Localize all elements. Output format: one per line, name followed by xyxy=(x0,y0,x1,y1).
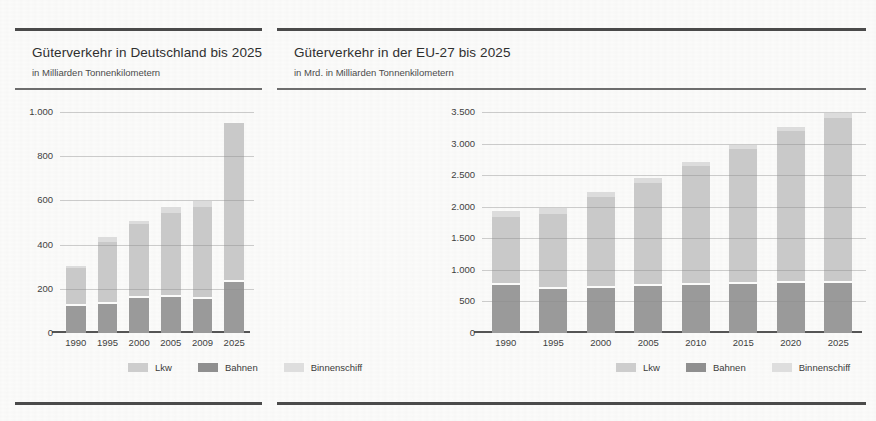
bar-slot-2009-de[interactable]: 2009 xyxy=(187,112,219,333)
y-axis-tick-label: 500 xyxy=(459,297,475,307)
header-divider xyxy=(277,88,866,90)
bar-segment-lkw[interactable] xyxy=(161,213,181,297)
panel-bottom-rule xyxy=(277,402,866,405)
x-axis-tick-label: 1995 xyxy=(97,337,118,348)
bar-segment-bahnen[interactable] xyxy=(729,284,757,333)
chart-plot-area-eu27: 19901995200020052010201520202025 05001.0… xyxy=(482,112,862,333)
y-axis-tick-label: 200 xyxy=(37,284,53,294)
bar-segment-bahnen[interactable] xyxy=(824,283,852,334)
bar-segment-bahnen[interactable] xyxy=(492,285,520,333)
bar-group-eu27: 19901995200020052010201520202025 xyxy=(482,112,862,333)
legend-item-bahnen[interactable]: Bahnen xyxy=(198,362,258,373)
bar-segment-lkw[interactable] xyxy=(66,268,86,306)
legend-label: Bahnen xyxy=(713,362,746,373)
legend-label: Lkw xyxy=(643,362,660,373)
bar-segment-lkw[interactable] xyxy=(98,242,118,305)
gridline xyxy=(482,270,866,271)
legend-swatch-bahnen xyxy=(686,363,706,372)
stacked-bar[interactable] xyxy=(492,211,520,333)
bar-segment-lkw[interactable] xyxy=(824,118,852,283)
x-axis-tick-label: 2000 xyxy=(129,337,150,348)
legend-item-lkw[interactable]: Lkw xyxy=(128,362,172,373)
bar-slot-1990-eu[interactable]: 1990 xyxy=(482,112,530,333)
chart-panel-germany: Güterverkehr in Deutschland bis 2025 in … xyxy=(0,0,276,421)
page-subtitle: in Mrd. in Milliarden Tonnenkilometern xyxy=(294,67,454,78)
y-axis-tick-label: 0 xyxy=(470,328,475,338)
stacked-bar[interactable] xyxy=(587,192,615,333)
bar-segment-bahnen[interactable] xyxy=(161,297,181,333)
legend-label: Lkw xyxy=(155,362,172,373)
bar-slot-2025-eu[interactable]: 2025 xyxy=(815,112,863,333)
stacked-bar[interactable] xyxy=(129,221,149,333)
x-axis-tick-label: 2020 xyxy=(780,337,801,348)
bar-segment-lkw[interactable] xyxy=(539,214,567,289)
x-axis-tick-label: 1990 xyxy=(495,337,516,348)
x-axis-tick-label: 2005 xyxy=(638,337,659,348)
legend-swatch-lkw xyxy=(128,363,148,372)
x-axis-tick-label: 2010 xyxy=(685,337,706,348)
stacked-bar[interactable] xyxy=(224,123,244,333)
bar-slot-1995-de[interactable]: 1995 xyxy=(92,112,124,333)
stacked-bar[interactable] xyxy=(824,113,852,333)
bar-slot-2025-de[interactable]: 2025 xyxy=(218,112,250,333)
bar-segment-bahnen[interactable] xyxy=(66,306,86,333)
legend-label: Binnenschiff xyxy=(799,362,851,373)
stacked-bar[interactable] xyxy=(161,207,181,333)
page-title: Güterverkehr in der EU-27 bis 2025 xyxy=(294,45,511,60)
y-axis-tick-label: 3.500 xyxy=(451,107,475,117)
bar-segment-lkw[interactable] xyxy=(224,123,244,282)
page-subtitle: in Milliarden Tonnenkilometern xyxy=(32,67,160,78)
bar-segment-lkw[interactable] xyxy=(587,197,615,287)
bar-segment-bahnen[interactable] xyxy=(777,283,805,333)
bar-slot-1990-de[interactable]: 1990 xyxy=(60,112,92,333)
bar-segment-bahnen[interactable] xyxy=(539,289,567,333)
gridline xyxy=(482,175,866,176)
gridline xyxy=(482,238,866,239)
x-axis-tick-label: 1990 xyxy=(65,337,86,348)
bar-slot-2020-eu[interactable]: 2020 xyxy=(767,112,815,333)
gridline xyxy=(482,207,866,208)
y-axis-tick-label: 1.000 xyxy=(29,107,53,117)
x-axis-tick-label: 2025 xyxy=(224,337,245,348)
legend-item-lkw[interactable]: Lkw xyxy=(616,362,660,373)
bar-slot-2000-de[interactable]: 2000 xyxy=(123,112,155,333)
bar-segment-bahnen[interactable] xyxy=(587,288,615,333)
gridline xyxy=(482,112,866,113)
stacked-bar[interactable] xyxy=(634,178,662,333)
x-axis-tick-label: 2000 xyxy=(590,337,611,348)
y-axis-tick-label: 400 xyxy=(37,240,53,250)
y-axis-tick-label: 600 xyxy=(37,196,53,206)
bar-segment-lkw[interactable] xyxy=(729,149,757,284)
bar-slot-1995-eu[interactable]: 1995 xyxy=(530,112,578,333)
chart-plot-area-germany: 199019952000200520092025 02004006008001.… xyxy=(60,112,250,333)
stacked-bar[interactable] xyxy=(66,266,86,333)
legend-item-bahnen[interactable]: Bahnen xyxy=(686,362,746,373)
bar-slot-2010-eu[interactable]: 2010 xyxy=(672,112,720,333)
gridline xyxy=(60,289,254,290)
chart-legend-eu27: LkwBahnenBinnenschiff xyxy=(616,362,850,373)
bar-slot-2000-eu[interactable]: 2000 xyxy=(577,112,625,333)
panel-bottom-rule xyxy=(15,402,262,405)
chart-panel-eu27: Güterverkehr in der EU-27 bis 2025 in Mr… xyxy=(276,0,876,421)
stacked-bar[interactable] xyxy=(682,162,710,333)
stacked-bar[interactable] xyxy=(193,201,213,333)
bar-segment-bahnen[interactable] xyxy=(634,286,662,333)
bar-segment-bahnen[interactable] xyxy=(193,299,213,333)
bar-segment-bahnen[interactable] xyxy=(682,285,710,333)
bar-segment-bahnen[interactable] xyxy=(98,304,118,333)
bar-segment-binnenschiff[interactable] xyxy=(193,201,213,208)
y-axis-tick-label: 2.000 xyxy=(451,202,475,212)
y-axis-tick-label: 0 xyxy=(48,328,53,338)
bar-segment-bahnen[interactable] xyxy=(129,298,149,333)
stacked-bar[interactable] xyxy=(98,237,118,333)
bar-slot-2005-de[interactable]: 2005 xyxy=(155,112,187,333)
bar-segment-lkw[interactable] xyxy=(682,166,710,285)
gridline xyxy=(60,112,254,113)
y-axis-tick-label: 2.500 xyxy=(451,170,475,180)
bar-segment-lkw[interactable] xyxy=(193,207,213,299)
legend-item-binnenschiff[interactable]: Binnenschiff xyxy=(772,362,851,373)
bar-segment-lkw[interactable] xyxy=(129,224,149,298)
bar-slot-2015-eu[interactable]: 2015 xyxy=(720,112,768,333)
bar-segment-lkw[interactable] xyxy=(492,217,520,285)
bar-slot-2005-eu[interactable]: 2005 xyxy=(625,112,673,333)
